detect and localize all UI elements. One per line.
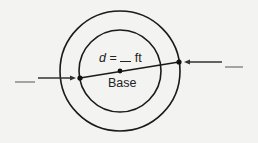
- center-point: [118, 69, 123, 74]
- diameter-eq: =: [106, 51, 120, 65]
- diameter-blank[interactable]: [120, 51, 131, 62]
- left-arrowhead-icon: [70, 76, 76, 81]
- diagram-canvas: [0, 0, 258, 143]
- center-label: Base: [108, 76, 137, 90]
- diameter-label: d = ft: [99, 51, 142, 65]
- right-arrowhead-icon: [184, 60, 190, 65]
- diameter-var: d: [99, 51, 106, 65]
- diameter-unit: ft: [131, 51, 141, 65]
- left-point: [77, 75, 82, 80]
- right-point: [176, 59, 181, 64]
